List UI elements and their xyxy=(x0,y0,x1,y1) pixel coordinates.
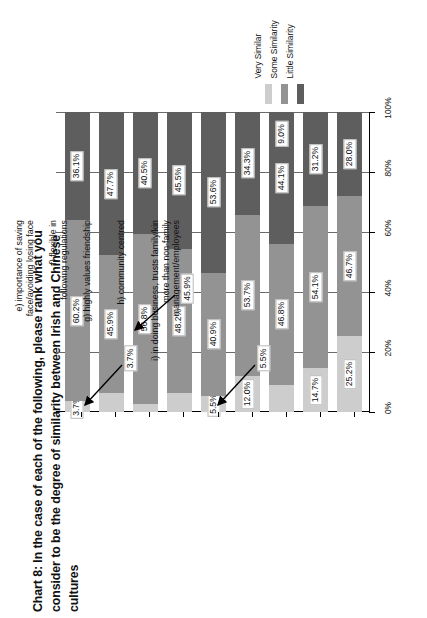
category-label-line: e) importance of saving xyxy=(14,220,25,420)
stacked-bar: 46.8%44.1% xyxy=(269,112,294,412)
data-label: 28.0% xyxy=(343,139,356,169)
data-label: 14.7% xyxy=(309,375,322,405)
legend-label: Some Similarity xyxy=(270,20,278,78)
legend-swatch-icon xyxy=(281,84,288,104)
annotation-label: 3.7% xyxy=(124,346,137,372)
legend-swatch-icon xyxy=(297,84,304,104)
category-tick xyxy=(320,412,321,417)
data-label: 47.7% xyxy=(105,168,118,198)
y-axis-line xyxy=(369,112,370,412)
annotation-label: 45.9% xyxy=(181,273,194,303)
data-label: 40.5% xyxy=(139,158,152,188)
data-label: 46.7% xyxy=(343,251,356,281)
category-label-line: g) highly values friendship xyxy=(82,220,93,420)
category-label-line: more than non-family xyxy=(161,220,172,420)
stacked-bar: 25.2%46.7%28.0% xyxy=(337,112,362,412)
legend: Very SimilarSome SimilarityLittle Simila… xyxy=(262,6,322,110)
category-tick xyxy=(183,412,184,417)
data-label: 36.1% xyxy=(71,151,84,181)
category-label-line: h) community centred xyxy=(116,220,127,420)
category-tick xyxy=(286,412,287,417)
category-label: e) importance of savingface/avoiding los… xyxy=(14,220,35,420)
axis-tick-label: 20% xyxy=(373,343,403,353)
legend-label: Little Similarity xyxy=(286,24,294,78)
axis-tick-label: 80% xyxy=(373,163,403,173)
category-label-line: following regulations xyxy=(58,220,69,420)
stacked-bar: 5.5%40.9%53.6% xyxy=(201,112,226,412)
category-label-line: face/avoiding losing face xyxy=(24,220,35,420)
axis-tick-label: 60% xyxy=(373,223,403,233)
chart-plot-area: 0%20%40%60%80%100%3.7%60.2%36.1%45.9%47.… xyxy=(56,112,369,412)
category-label: i) in doing business, trusts family/kinm… xyxy=(150,220,182,420)
data-label: 53.6% xyxy=(207,177,220,207)
data-label: 34.3% xyxy=(241,148,254,178)
axis-tick-label: 100% xyxy=(373,103,403,113)
legend-label: Very Similar xyxy=(254,33,262,78)
category-tick xyxy=(218,412,219,417)
category-label-line: i) in doing business, trusts family/kin xyxy=(150,220,161,420)
legend-item: Little Similarity xyxy=(294,6,310,110)
axis-tick-label: 40% xyxy=(373,283,403,293)
legend-swatch-icon xyxy=(265,84,272,104)
stacked-bar: 14.7%54.1%31.2% xyxy=(303,112,328,412)
data-label: 53.7% xyxy=(241,280,254,310)
bar-segment xyxy=(269,385,294,412)
data-label: 46.8% xyxy=(275,299,288,329)
category-label-line: management/employees xyxy=(171,220,182,420)
data-label: 25.2% xyxy=(343,359,356,389)
annotation-label: 5.5% xyxy=(257,346,270,372)
data-label: 44.1% xyxy=(275,163,288,193)
data-label: 12.0% xyxy=(241,379,254,409)
data-label: 45.5% xyxy=(173,165,186,195)
data-label: 40.9% xyxy=(207,319,220,349)
category-label: g) highly values friendship xyxy=(82,220,93,420)
category-tick xyxy=(252,412,253,417)
category-label: h) community centred xyxy=(116,220,127,420)
category-label: f) flexible infollowing regulations xyxy=(48,220,69,420)
category-label-line: f) flexible in xyxy=(48,220,59,420)
category-tick xyxy=(354,412,355,417)
axis-tick-label: 0% xyxy=(373,403,403,413)
data-label: 31.2% xyxy=(309,144,322,174)
data-label: 9.0% xyxy=(275,121,288,147)
data-label: 54.1% xyxy=(309,272,322,302)
